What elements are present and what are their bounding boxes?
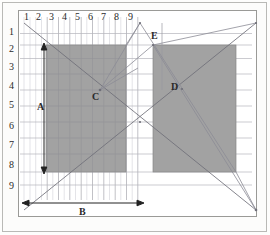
- row-tick-5: 5: [9, 100, 14, 110]
- diagram-page: 1 2 3 4 5 6 7 8 9 1 2 3 4 5 6 7 8 9 C D …: [0, 0, 270, 235]
- column-tick-9: 9: [128, 12, 133, 22]
- column-tick-3: 3: [49, 12, 54, 22]
- row-tick-9: 9: [9, 181, 14, 191]
- point-label-c: C: [92, 92, 99, 102]
- point-label-e: E: [151, 31, 158, 41]
- node-right-rect-topleft: [152, 44, 154, 46]
- column-tick-7: 7: [101, 12, 106, 22]
- column-tick-5: 5: [75, 12, 80, 22]
- row-tick-2: 2: [9, 44, 14, 54]
- node-top-right: [255, 22, 257, 24]
- figure-canvas: 1 2 3 4 5 6 7 8 9 1 2 3 4 5 6 7 8 9 C D …: [4, 4, 265, 230]
- column-tick-8: 8: [114, 12, 119, 22]
- row-tick-7: 7: [9, 140, 14, 150]
- node-mid-cross: [139, 121, 141, 123]
- diagram-svg: [4, 4, 265, 230]
- row-tick-3: 3: [9, 62, 14, 72]
- point-label-d: D: [171, 82, 178, 92]
- column-tick-1: 1: [24, 12, 29, 22]
- column-tick-6: 6: [88, 12, 93, 22]
- node-bottom-right: [255, 209, 258, 212]
- node-point-c: [99, 89, 102, 92]
- left-rectangle: [46, 45, 126, 172]
- row-tick-4: 4: [9, 81, 14, 91]
- column-tick-2: 2: [36, 12, 41, 22]
- node-apex: [139, 22, 141, 24]
- row-tick-1: 1: [9, 27, 14, 37]
- dimension-label-a: A: [37, 102, 44, 112]
- dimension-label-b: B: [79, 207, 86, 217]
- row-tick-8: 8: [9, 160, 14, 170]
- row-tick-6: 6: [9, 121, 14, 131]
- column-tick-4: 4: [62, 12, 67, 22]
- node-point-d: [181, 88, 183, 90]
